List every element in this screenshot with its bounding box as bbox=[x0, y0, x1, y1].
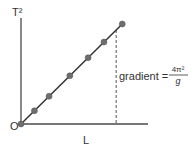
data-point bbox=[46, 93, 52, 99]
fraction-denominator: g bbox=[175, 76, 180, 86]
fraction-numerator: 4π² bbox=[172, 65, 185, 74]
data-point bbox=[85, 55, 91, 61]
origin-label: O bbox=[10, 120, 19, 132]
data-point bbox=[18, 121, 24, 127]
data-point bbox=[101, 39, 107, 45]
data-point bbox=[67, 73, 73, 79]
data-point bbox=[31, 108, 37, 114]
gradient-label: gradient = bbox=[119, 70, 168, 82]
y-axis-label: T² bbox=[12, 6, 23, 18]
x-axis-label: L bbox=[83, 134, 89, 146]
data-point bbox=[119, 21, 125, 27]
graph: T² L O gradient = 4π² g bbox=[0, 0, 194, 152]
